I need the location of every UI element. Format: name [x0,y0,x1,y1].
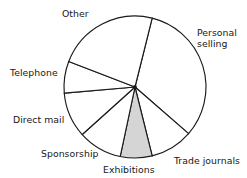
pie-label-personal-selling-line1: Personal [197,27,237,38]
pie-label-personal-selling: Personal selling [197,27,245,49]
pie-label-trade-journals: Trade journals [174,155,240,166]
pie-center-dot [133,85,137,89]
pie-label-sponsorship: Sponsorship [41,148,99,159]
pie-label-telephone: Telephone [10,67,58,78]
pie-chart-figure: Other Personal selling Trade journals Ex… [0,0,247,178]
pie-label-exhibitions: Exhibitions [103,164,155,175]
pie-label-personal-selling-line2: selling [197,38,227,49]
pie-label-other: Other [62,8,89,19]
pie-label-direct-mail: Direct mail [13,114,64,125]
